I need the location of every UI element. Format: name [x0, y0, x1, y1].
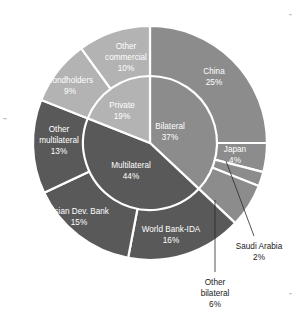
scan-speck-top-right: [289, 14, 292, 15]
callout-other-bilateral-line1: Other: [205, 278, 226, 287]
scan-speck-left: [3, 118, 7, 119]
chart-container: China 25% Japan 4% World Bank-IDA 16% As…: [0, 0, 300, 331]
callout-other-bilateral-value: 6%: [209, 300, 221, 309]
inner-ring: [83, 76, 217, 210]
callout-saudi-arabia-name: Saudi Arabia: [236, 242, 283, 251]
nested-pie-chart: China 25% Japan 4% World Bank-IDA 16% As…: [0, 0, 300, 331]
callout-saudi-arabia-value: 2%: [253, 253, 265, 262]
scan-speck-bottom-right: [289, 293, 292, 294]
callout-other-bilateral-line2: bilateral: [201, 289, 230, 298]
